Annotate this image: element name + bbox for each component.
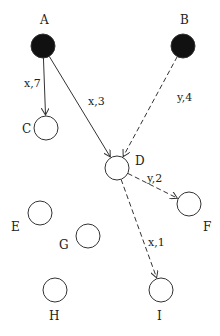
node-label: E (11, 220, 20, 234)
edge-b-d: y,4 (123, 57, 192, 157)
edge-label: y,4 (176, 91, 192, 104)
node-f: F (177, 192, 211, 234)
node-i: I (149, 278, 173, 323)
filled-node-circle (31, 34, 55, 58)
node-label: D (135, 154, 145, 168)
node-label: I (157, 309, 162, 323)
edge-label: x,3 (88, 95, 105, 108)
edge-d-f: y,2 (128, 172, 178, 198)
node-label: C (22, 122, 31, 136)
node-label: F (203, 220, 211, 234)
node-e: E (11, 201, 52, 234)
empty-node-circle (149, 278, 173, 302)
edge-label: x,7 (24, 77, 41, 90)
empty-node-circle (105, 156, 129, 180)
edge-line (121, 179, 157, 277)
edge-d-i: x,1 (121, 179, 165, 277)
edge-line (43, 58, 45, 115)
empty-node-circle (177, 192, 201, 216)
empty-node-circle (28, 201, 52, 225)
node-d: D (105, 154, 145, 180)
nodes-layer: ABCDFEGHI (11, 13, 211, 323)
empty-node-circle (43, 278, 67, 302)
node-label: B (180, 13, 189, 27)
empty-node-circle (34, 116, 58, 140)
node-label: G (59, 238, 69, 252)
edge-a-d: x,3 (49, 56, 110, 157)
empty-node-circle (76, 224, 100, 248)
node-label: A (39, 13, 49, 27)
node-h: H (43, 278, 67, 323)
node-label: H (49, 309, 59, 323)
graph-diagram: x,7x,3y,4y,2x,1 ABCDFEGHI (0, 0, 220, 336)
filled-node-circle (171, 34, 195, 58)
edge-a-c: x,7 (24, 58, 46, 115)
edge-line (123, 57, 177, 157)
node-b: B (171, 13, 195, 58)
node-g: G (59, 224, 100, 252)
diagram-svg: x,7x,3y,4y,2x,1 ABCDFEGHI (0, 0, 220, 336)
node-c: C (22, 116, 58, 140)
edge-label: y,2 (146, 172, 162, 185)
edge-label: x,1 (148, 236, 165, 249)
node-a: A (31, 13, 55, 58)
